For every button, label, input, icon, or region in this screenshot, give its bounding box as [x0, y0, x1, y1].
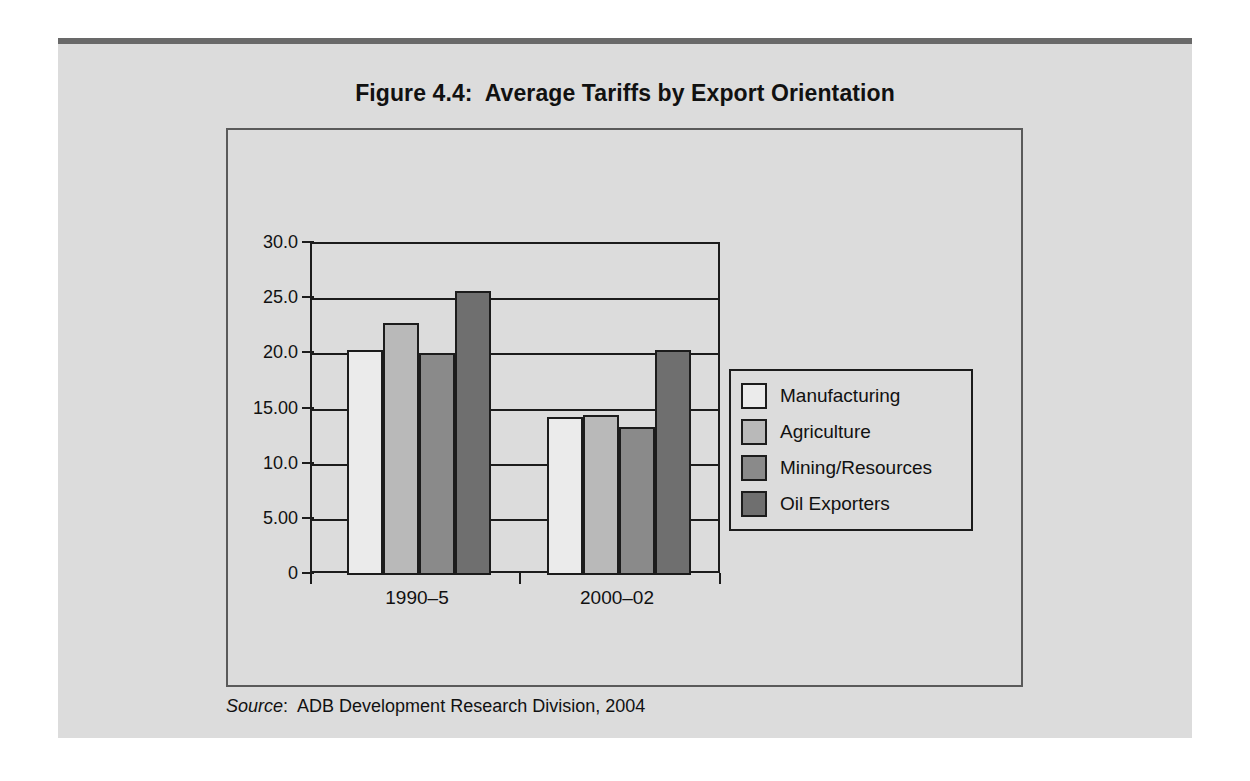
legend-label: Manufacturing — [780, 385, 900, 407]
y-axis-tick-mark — [302, 407, 314, 409]
y-axis-tick-label: 0 — [288, 563, 298, 584]
chart-legend: ManufacturingAgricultureMining/Resources… — [729, 369, 973, 531]
bar — [419, 353, 455, 575]
page-title: Figure 4.4: Average Tariffs by Export Or… — [58, 80, 1192, 107]
y-axis-tick-mark — [302, 241, 314, 243]
top-rule-divider — [58, 38, 1192, 44]
source-label: Source — [226, 696, 283, 716]
y-axis-tick-label: 10.0 — [263, 452, 298, 473]
gridline — [312, 298, 718, 300]
bar — [547, 417, 583, 575]
legend-swatch — [741, 383, 767, 409]
legend-swatch — [741, 491, 767, 517]
plot-area — [310, 242, 720, 573]
y-axis-tick-label: 20.0 — [263, 342, 298, 363]
bar — [455, 291, 491, 575]
legend-item: Oil Exporters — [741, 487, 890, 521]
legend-label: Oil Exporters — [780, 493, 890, 515]
y-axis-tick-mark — [302, 572, 314, 574]
y-axis-labels: 30.025.020.015.0010.05.000 — [210, 242, 298, 573]
legend-item: Mining/Resources — [741, 451, 932, 485]
legend-item: Agriculture — [741, 415, 871, 449]
y-axis-tick-mark — [302, 351, 314, 353]
source-text: : ADB Development Research Division, 200… — [283, 696, 645, 716]
legend-item: Manufacturing — [741, 379, 900, 413]
x-axis-group-label: 2000–02 — [557, 587, 677, 609]
figure-container: Figure 4.4: Average Tariffs by Export Or… — [58, 38, 1192, 738]
bar — [383, 323, 419, 575]
y-axis-tick-label: 25.0 — [263, 287, 298, 308]
legend-swatch — [741, 455, 767, 481]
bar — [619, 427, 655, 575]
source-caption: Source: ADB Development Research Divisio… — [226, 696, 645, 717]
y-axis-tick-label: 30.0 — [263, 232, 298, 253]
x-axis-tick-mark — [310, 573, 312, 584]
x-axis-tick-mark — [519, 573, 521, 584]
y-axis-tick-label: 5.00 — [263, 507, 298, 528]
x-axis-tick-mark — [719, 573, 721, 584]
y-axis-tick-mark — [302, 296, 314, 298]
x-axis-group-label: 1990–5 — [357, 587, 477, 609]
y-axis-tick-label: 15.00 — [253, 397, 298, 418]
y-axis-tick-mark — [302, 462, 314, 464]
bar — [655, 350, 691, 575]
legend-label: Mining/Resources — [780, 457, 932, 479]
y-axis-tick-mark — [302, 517, 314, 519]
legend-swatch — [741, 419, 767, 445]
legend-label: Agriculture — [780, 421, 871, 443]
bar — [583, 415, 619, 575]
bar — [347, 350, 383, 575]
